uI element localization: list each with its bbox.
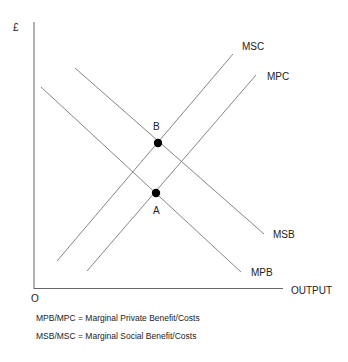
msb-label: MSB <box>273 229 295 240</box>
externality-diagram: £ OUTPUT O MSC MPC MSB MPB B A <box>0 0 348 362</box>
legend-social: MSB/MSC = Marginal Social Benefit/Costs <box>36 331 196 341</box>
y-axis-label: £ <box>13 22 19 33</box>
legend-private: MPB/MPC = Marginal Private Benefit/Costs <box>36 313 200 323</box>
point-a <box>152 189 160 197</box>
msb-curve <box>75 68 264 234</box>
point-b-label: B <box>153 121 160 132</box>
mpc-curve <box>87 75 256 271</box>
msc-label: MSC <box>242 41 264 52</box>
x-axis-label: OUTPUT <box>291 285 332 296</box>
msc-curve <box>57 54 233 261</box>
mpb-label: MPB <box>251 267 273 278</box>
mpc-label: MPC <box>267 71 289 82</box>
origin-label: O <box>31 293 39 304</box>
point-b <box>154 139 162 147</box>
point-a-label: A <box>153 205 160 216</box>
